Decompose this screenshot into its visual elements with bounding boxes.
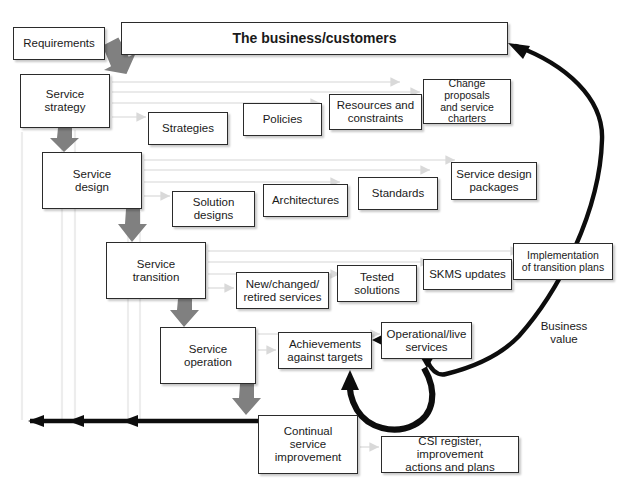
requirements-box: Requirements (13, 27, 105, 60)
lifecycle-box-service-strategy: Service strategy (20, 74, 110, 128)
csi-feedback-arrowheads (28, 415, 138, 427)
output-box-achievements-against-targets: Achievements against targets (278, 332, 372, 369)
business-value-arrowhead (508, 43, 530, 59)
output-label-new-changed-retired-services: New/changed/ retired services (244, 278, 322, 304)
lifecycle-label-continual-service-improvement: Continual service improvement (275, 425, 341, 464)
output-label-resources-constraints: Resources and constraints (337, 99, 414, 125)
output-box-change-proposals: Change proposals and service charters (423, 79, 511, 124)
output-label-change-proposals: Change proposals and service charters (426, 78, 508, 125)
lifecycle-box-service-design: Service design (42, 152, 142, 209)
output-box-strategies: Strategies (148, 112, 228, 145)
itil-lifecycle-diagram: The business/customers Requirements Serv… (0, 0, 629, 489)
output-label-service-design-packages: Service design packages (456, 168, 531, 194)
output-box-operational-live-services: Operational/live services (381, 322, 472, 359)
lifecycle-label-service-strategy: Service strategy (45, 88, 86, 114)
output-box-service-design-packages: Service design packages (451, 162, 537, 200)
business-customers-banner: The business/customers (121, 22, 508, 55)
output-label-tested-solutions: Tested solutions (354, 271, 399, 297)
output-label-skms-updates: SKMS updates (429, 268, 506, 281)
lifecycle-label-service-operation: Service operation (184, 343, 232, 369)
csi-circular-arrowhead (341, 370, 359, 390)
output-label-policies: Policies (263, 113, 303, 126)
output-label-strategies: Strategies (162, 122, 214, 135)
lifecycle-box-service-transition: Service transition (106, 242, 206, 299)
lifecycle-box-service-operation: Service operation (160, 327, 256, 384)
output-box-implementation-transition-plans: Implementation of transition plans (513, 243, 613, 280)
output-box-resources-constraints: Resources and constraints (329, 94, 422, 130)
output-box-architectures: Architectures (263, 184, 348, 217)
output-box-policies: Policies (243, 103, 322, 136)
business-value-label: Business value (532, 320, 596, 346)
output-box-solution-designs: Solution designs (172, 191, 255, 227)
requirements-label: Requirements (23, 37, 95, 50)
output-box-standards: Standards (358, 177, 438, 210)
output-box-csi-register: CSI register, improvement actions and pl… (381, 436, 519, 473)
output-box-new-changed-retired-services: New/changed/ retired services (236, 272, 329, 309)
lifecycle-box-continual-service-improvement: Continual service improvement (258, 415, 358, 474)
output-box-skms-updates: SKMS updates (423, 259, 512, 290)
output-label-architectures: Architectures (272, 194, 339, 207)
business-customers-label: The business/customers (232, 31, 396, 47)
lifecycle-label-service-transition: Service transition (133, 258, 180, 284)
output-label-implementation-transition-plans: Implementation of transition plans (522, 250, 604, 274)
output-label-operational-live-services: Operational/live services (387, 328, 467, 354)
output-label-solution-designs: Solution designs (193, 196, 235, 222)
lifecycle-label-service-design: Service design (73, 168, 111, 194)
csi-circular-arrow (350, 368, 433, 430)
output-box-tested-solutions: Tested solutions (337, 265, 417, 302)
output-label-standards: Standards (372, 187, 424, 200)
output-label-achievements-against-targets: Achievements against targets (287, 338, 362, 364)
output-label-csi-register: CSI register, improvement actions and pl… (384, 435, 516, 474)
